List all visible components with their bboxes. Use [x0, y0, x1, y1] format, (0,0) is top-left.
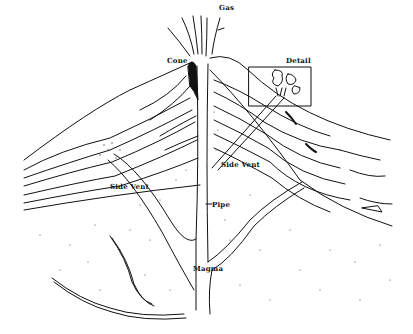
- gas-plume: [168, 16, 224, 56]
- cone-shading: [188, 62, 198, 100]
- left-magma-branch: [52, 236, 186, 319]
- right-slope: [210, 57, 392, 227]
- pipe-label: Pipe: [212, 200, 230, 209]
- side-vent-left-label: Side Vent: [110, 182, 149, 191]
- volcano-diagram: Gas Cone Detail Side Vent Side Vent Pipe…: [0, 0, 413, 334]
- main-pipe: [196, 64, 304, 314]
- side-vent-right-label: Side Vent: [221, 160, 260, 169]
- detail-label: Detail: [286, 56, 311, 65]
- volcano-drawing: [0, 0, 413, 334]
- detail-box: [249, 67, 311, 106]
- gas-label: Gas: [219, 3, 234, 12]
- detail-eruption: [272, 70, 300, 96]
- cone-label: Cone: [167, 56, 188, 65]
- magma-label: Magma: [193, 264, 223, 273]
- left-side-vent: [108, 154, 196, 290]
- right-side-vent: [212, 96, 284, 170]
